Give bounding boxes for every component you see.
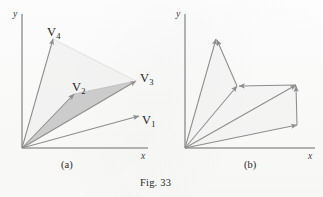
x-axis-label-a: x [141,152,145,162]
vector-label-v1: V1 [142,114,155,127]
vector-label-v3: V3 [140,72,153,85]
figure-33: V4 V2 V3 V1 y x (a) [0,0,323,197]
x-axis-label-b: x [308,152,312,162]
vector-label-v4: V4 [47,26,60,39]
y-axis-label-b: y [176,10,180,20]
y-axis-label-a: y [13,10,17,20]
panel-b-graphic [163,0,323,197]
panel-a: V4 V2 V3 V1 y x (a) [0,0,170,197]
panel-caption-b: (b) [244,160,256,171]
figure-caption: Fig. 33 [140,178,171,189]
panel-caption-a: (a) [61,160,73,171]
vector-label-v2: V2 [72,81,85,94]
panel-b: y x (b) [163,0,323,197]
panel-a-graphic [0,0,170,197]
